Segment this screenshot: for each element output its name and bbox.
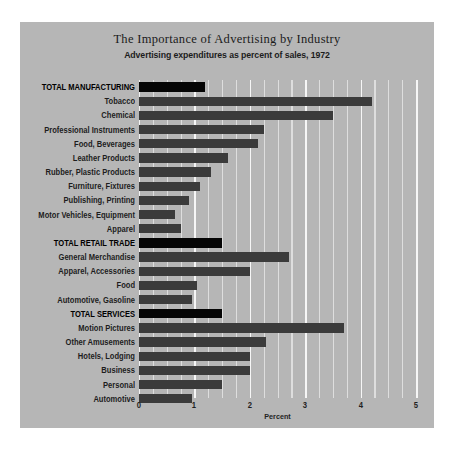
category-label: Furniture, Fixtures bbox=[34, 179, 135, 193]
bar bbox=[139, 267, 250, 276]
category-label: Apparel bbox=[34, 222, 135, 236]
bar-row bbox=[139, 363, 416, 377]
category-label: Motor Vehicles, Equipment bbox=[34, 208, 135, 222]
x-tick-label: 2 bbox=[248, 400, 252, 410]
x-tick-label: 0 bbox=[137, 400, 141, 410]
category-label: TOTAL MANUFACTURING bbox=[34, 80, 135, 94]
bar bbox=[139, 196, 189, 205]
bar bbox=[139, 125, 264, 134]
category-axis-labels: TOTAL MANUFACTURINGTobaccoChemicalProfes… bbox=[20, 80, 135, 398]
category-label: Chemical bbox=[34, 108, 135, 122]
category-label: Business bbox=[34, 363, 135, 377]
x-tick-label: 1 bbox=[192, 400, 196, 410]
bar-row bbox=[139, 179, 416, 193]
bar-row bbox=[139, 165, 416, 179]
bar bbox=[139, 111, 333, 120]
bar bbox=[139, 309, 222, 318]
bar-row bbox=[139, 349, 416, 363]
bar bbox=[139, 97, 372, 106]
bar-row bbox=[139, 193, 416, 207]
category-label: TOTAL SERVICES bbox=[34, 307, 135, 321]
bar-series bbox=[139, 80, 416, 398]
category-label: Professional Instruments bbox=[34, 123, 135, 137]
bar bbox=[139, 210, 175, 219]
chart-panel: The Importance of Advertising by Industr… bbox=[20, 22, 434, 428]
category-label: Automotive bbox=[34, 392, 135, 406]
category-label: Automotive, Gasoline bbox=[34, 293, 135, 307]
category-label: Rubber, Plastic Products bbox=[34, 165, 135, 179]
bar-row bbox=[139, 264, 416, 278]
bar bbox=[139, 238, 222, 247]
bar-row bbox=[139, 321, 416, 335]
x-tick-label: 4 bbox=[358, 400, 362, 410]
bar-row bbox=[139, 250, 416, 264]
bar-row bbox=[139, 335, 416, 349]
chart-title: The Importance of Advertising by Industr… bbox=[20, 32, 434, 47]
plot-area bbox=[139, 80, 416, 398]
x-axis-label: Percent bbox=[153, 412, 402, 421]
category-label: Leather Products bbox=[34, 151, 135, 165]
bar bbox=[139, 352, 250, 361]
category-label: Personal bbox=[34, 378, 135, 392]
bar-row bbox=[139, 108, 416, 122]
bar-row bbox=[139, 123, 416, 137]
bar-row bbox=[139, 378, 416, 392]
bar bbox=[139, 153, 228, 162]
category-label: Hotels, Lodging bbox=[34, 349, 135, 363]
bar bbox=[139, 337, 266, 346]
bar bbox=[139, 82, 205, 91]
category-label: Tobacco bbox=[34, 94, 135, 108]
gridline-major bbox=[416, 80, 418, 398]
bar bbox=[139, 281, 197, 290]
bar-row bbox=[139, 278, 416, 292]
bar bbox=[139, 252, 289, 261]
category-label: Food bbox=[34, 278, 135, 292]
chart-subtitle: Advertising expenditures as percent of s… bbox=[37, 49, 418, 60]
bar bbox=[139, 295, 192, 304]
bar-row bbox=[139, 80, 416, 94]
bar bbox=[139, 366, 250, 375]
category-label: Other Amusements bbox=[34, 335, 135, 349]
x-tick-label: 5 bbox=[414, 400, 418, 410]
bar-row bbox=[139, 236, 416, 250]
category-label: Apparel, Accessories bbox=[34, 264, 135, 278]
bar-row bbox=[139, 208, 416, 222]
bar bbox=[139, 182, 200, 191]
bar bbox=[139, 139, 258, 148]
bar bbox=[139, 323, 344, 332]
category-label: Motion Pictures bbox=[34, 321, 135, 335]
bar bbox=[139, 224, 181, 233]
category-label: Food, Beverages bbox=[34, 137, 135, 151]
category-label: General Merchandise bbox=[34, 250, 135, 264]
bar-row bbox=[139, 307, 416, 321]
bar-row bbox=[139, 137, 416, 151]
bar-row bbox=[139, 94, 416, 108]
bar-row bbox=[139, 222, 416, 236]
x-tick-label: 3 bbox=[303, 400, 307, 410]
bar-row bbox=[139, 151, 416, 165]
category-label: Publishing, Printing bbox=[34, 193, 135, 207]
bar-row bbox=[139, 293, 416, 307]
bar bbox=[139, 380, 222, 389]
bar bbox=[139, 167, 211, 176]
category-label: TOTAL RETAIL TRADE bbox=[34, 236, 135, 250]
